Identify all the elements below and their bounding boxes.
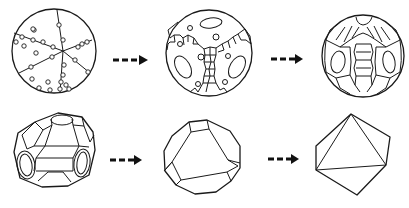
stage-4-rounded-polyhedron — [14, 113, 95, 187]
arrow-head-icon — [295, 54, 303, 64]
nucleation-dot — [86, 70, 90, 74]
stage-5-truncated-octahedron — [164, 120, 240, 194]
nucleation-dot — [64, 83, 68, 87]
arrow-head-icon — [139, 55, 148, 65]
arrow-1-to-2 — [113, 55, 148, 65]
arrow-head-icon — [291, 154, 299, 164]
nucleation-dot — [41, 40, 45, 44]
nucleation-dot — [34, 51, 38, 55]
stage-1-outline — [12, 9, 96, 93]
nucleation-dot — [61, 38, 65, 42]
nucleation-dot — [48, 88, 52, 92]
nucleation-dot — [58, 87, 62, 91]
nucleation-dot — [46, 80, 50, 84]
nucleation-dot — [76, 45, 80, 49]
nucleation-dot — [22, 44, 26, 48]
nucleation-dot — [62, 63, 66, 67]
nucleation-dot — [37, 86, 41, 90]
nucleation-dot — [85, 40, 89, 44]
nucleation-dot — [20, 35, 24, 39]
stage-3-sphere-bands — [322, 15, 404, 97]
nucleation-dot — [67, 87, 71, 91]
nucleation-dot — [57, 23, 61, 27]
nucleation-dot — [73, 58, 77, 62]
nucleation-dot — [50, 55, 54, 59]
arrow-5-to-6 — [268, 154, 299, 164]
stage-2-sphere-network — [166, 10, 252, 96]
morphology-diagram — [0, 0, 409, 208]
nucleation-dot — [31, 27, 35, 31]
nucleation-dot — [61, 73, 65, 77]
nucleation-dot — [59, 80, 63, 84]
arrow-head-icon — [134, 155, 142, 165]
arrow-4-to-5 — [110, 155, 142, 165]
diagram-svg — [0, 0, 409, 208]
nucleation-dot — [14, 40, 18, 44]
stage-1-sphere-dots — [12, 9, 96, 93]
stage-6-octahedron — [316, 114, 390, 195]
arrow-2-to-3 — [271, 54, 303, 64]
nucleation-dot — [30, 77, 34, 81]
nucleation-dot — [51, 45, 55, 49]
nucleation-dot — [31, 38, 35, 42]
nucleation-dot — [80, 42, 84, 46]
nucleation-dot — [29, 65, 33, 69]
stage-1-radial-lines — [14, 10, 92, 93]
